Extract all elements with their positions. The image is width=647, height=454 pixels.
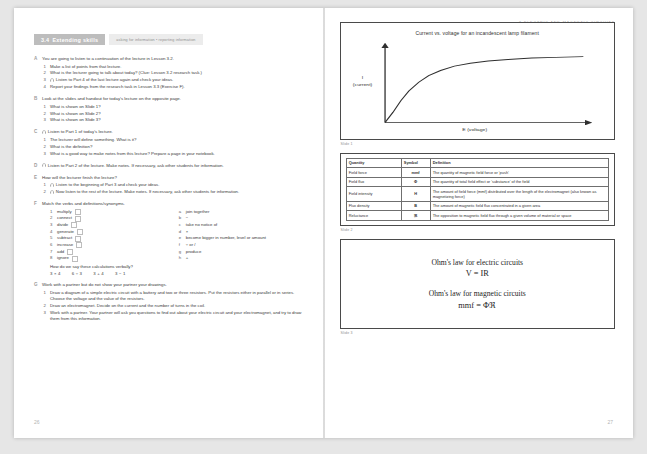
exercise-heading: CListen to Part 1 of today's lecture. <box>34 129 308 136</box>
verb-label: ignore <box>57 255 69 262</box>
exercise-heading: FMatch the verbs and definitions/synonym… <box>34 201 308 208</box>
chart-axis-labels: I (current) E (voltage) <box>349 38 607 132</box>
exercise-letter: C <box>34 129 42 136</box>
definition-key: f <box>179 242 186 249</box>
step-number: 1 <box>44 290 46 296</box>
ohms-electric-equation: V = IR <box>466 269 489 278</box>
slide-2-caption: Slide 2 <box>341 228 616 232</box>
cell-definition: The amount of field force (mmf) distribu… <box>430 186 609 201</box>
col-header-definition: Definition <box>430 159 609 168</box>
matching-verb-row[interactable]: 3divide <box>50 222 179 229</box>
unit-tab: 3.4 Extending skills <box>34 34 105 45</box>
matching-definition-row[interactable]: d× <box>179 229 308 236</box>
matching-definition-row[interactable]: f÷ or / <box>179 242 308 249</box>
headphone-icon <box>50 78 54 82</box>
answer-box[interactable] <box>72 256 78 262</box>
slide-1-caption: Slide 1 <box>341 142 616 146</box>
definition-label: become bigger in number, level or amount <box>186 235 266 242</box>
exercise-step: 2What is shown on Slide 2? <box>50 111 308 117</box>
exercise-steps: 1Draw a diagram of a simple electric cir… <box>34 290 308 323</box>
definition-key: h <box>179 255 186 262</box>
slide-3-caption: Slide 3 <box>341 331 616 335</box>
matching-verb-row[interactable]: 1multiply <box>50 209 179 216</box>
matching-verb-row[interactable]: 5subtract <box>50 235 179 242</box>
exercise-steps: 1Make a list of points from that lecture… <box>34 64 308 91</box>
table-row: Field forcemmfThe quantity of magnetic f… <box>346 168 609 177</box>
exercise-f: FMatch the verbs and definitions/synonym… <box>34 201 308 276</box>
skills-tag: asking for information • reporting infor… <box>109 34 202 45</box>
slide-3-ohms-law: Ohm's law for electric circuits V = IR O… <box>340 239 616 329</box>
verb-number: 7 <box>50 249 57 256</box>
exercise-letter: F <box>34 201 42 208</box>
definition-key: a <box>179 209 186 216</box>
step-number: 3 <box>44 77 46 83</box>
exercise-a: AYou are going to listen to a continuati… <box>34 56 308 91</box>
matching-definition-row[interactable]: ebecome bigger in number, level or amoun… <box>179 235 308 242</box>
verb-label: generate <box>57 229 74 236</box>
definition-label: produce <box>186 249 202 256</box>
headphone-icon <box>50 183 54 187</box>
x-axis-label: E (voltage) <box>462 128 487 132</box>
answer-box[interactable] <box>71 222 77 228</box>
matching-definition-row[interactable]: gproduce <box>179 249 308 256</box>
ohms-magnetic-label: Ohm's law for magnetic circuits <box>429 288 526 299</box>
unit-header: 3.4 Extending skills asking for informat… <box>34 34 308 45</box>
exercise-letter: D <box>34 163 42 170</box>
exercise-step: 2What is the definition? <box>50 144 308 150</box>
cell-definition: The opposition to magnetic field flux th… <box>430 211 609 220</box>
answer-box[interactable] <box>75 209 81 215</box>
exercise-stem: Match the verbs and definitions/synonyms… <box>42 201 308 207</box>
y-axis-label-line2: (current) <box>352 83 372 87</box>
cell-quantity: Field flux <box>346 177 401 186</box>
right-page: 3 ELECTRIC AND MAGNETIC CIRCUITS Current… <box>324 8 634 438</box>
step-number: 2 <box>44 189 46 195</box>
verb-label: multiply <box>57 209 72 216</box>
answer-box[interactable] <box>77 229 83 235</box>
table-row: ReluctanceℜThe opposition to magnetic fi… <box>346 211 609 220</box>
table-header-row: Quantity Symbol Definition <box>346 159 609 168</box>
exercise-step: 4Report your findings from the research … <box>50 84 308 90</box>
col-header-quantity: Quantity <box>346 159 401 168</box>
exercise-steps: 1The lecturer will define something. Wha… <box>34 137 308 157</box>
definition-label: + <box>186 255 189 262</box>
matching-verb-row[interactable]: 7add <box>50 249 179 256</box>
step-number: 1 <box>44 104 46 110</box>
step-number: 3 <box>44 310 46 316</box>
matching-verb-row[interactable]: 2connect <box>50 215 179 222</box>
answer-box[interactable] <box>75 216 81 222</box>
exercise-step: 1What is shown on Slide 1? <box>50 104 308 110</box>
answer-box[interactable] <box>76 242 82 248</box>
quantities-table-body: Field forcemmfThe quantity of magnetic f… <box>346 168 609 221</box>
exercise-step: 2Draw an electromagnet. Decide on the cu… <box>50 303 308 309</box>
exercise-steps: 1What is shown on Slide 1?2What is shown… <box>34 104 308 124</box>
step-number: 2 <box>44 70 46 76</box>
ohms-magnetic-equation: mmf = Φℜ <box>458 300 496 310</box>
exercise-heading: GWork with a partner but do not show you… <box>34 282 308 289</box>
exercise-step: 1Listen to the beginning of Part 3 and c… <box>50 182 308 188</box>
matching-verbs-column: 1multiply2connect3divide4generate5subtra… <box>50 209 179 262</box>
definition-label: − <box>186 215 189 222</box>
matching-definition-row[interactable]: b− <box>179 215 308 222</box>
exercise-letter: A <box>34 56 42 63</box>
verb-number: 5 <box>50 235 57 242</box>
definition-key: b <box>179 215 186 222</box>
matching-definition-row[interactable]: ajoin together <box>179 209 308 216</box>
matching-definitions-column: ajoin togetherb−ctake no notice ofd×ebec… <box>179 209 308 262</box>
calculation-list: 3 × 46 ÷ 33 + 43 − 1 <box>34 271 308 276</box>
answer-box[interactable] <box>75 236 81 242</box>
matching-verb-row[interactable]: 4generate <box>50 229 179 236</box>
matching-verb-row[interactable]: 6increase <box>50 242 179 249</box>
answer-box[interactable] <box>67 249 73 255</box>
headphone-icon <box>42 130 46 134</box>
y-axis-label-line1: I <box>361 76 362 80</box>
exercise-step: 3What is a good way to make notes from t… <box>50 151 308 157</box>
exercise-list: AYou are going to listen to a continuati… <box>34 56 308 323</box>
definition-key: g <box>179 249 186 256</box>
matching-definition-row[interactable]: ctake no notice of <box>179 222 308 229</box>
matching-verb-row[interactable]: 8ignore <box>50 255 179 262</box>
verbal-question: How do we say these calculations verball… <box>34 264 308 271</box>
verb-number: 2 <box>50 215 57 222</box>
matching-definition-row[interactable]: h+ <box>179 255 308 262</box>
step-number: 4 <box>44 84 46 90</box>
definition-key: d <box>179 229 186 236</box>
